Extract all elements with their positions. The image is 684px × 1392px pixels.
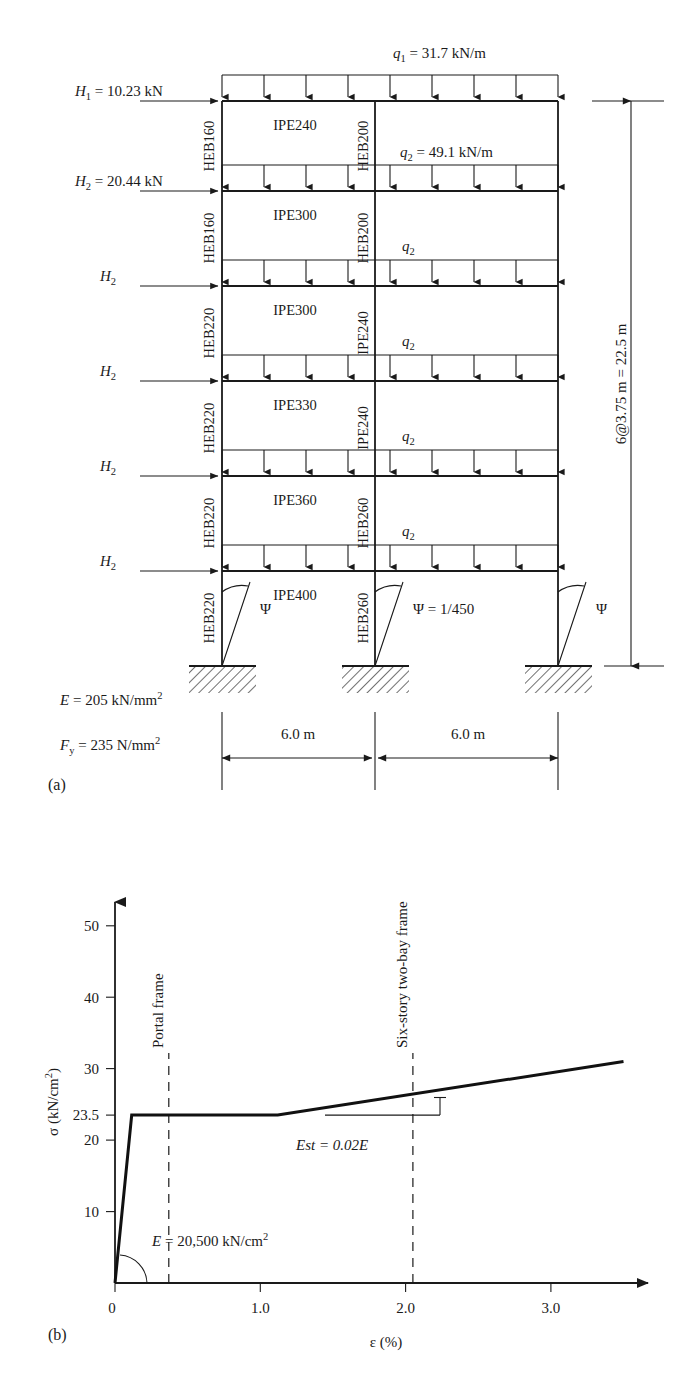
stress-strain-curve xyxy=(115,1062,624,1284)
beam-label-floor1: IPE400 xyxy=(273,587,317,603)
youngs-modulus-label: E = 205 kN/mm2 xyxy=(59,690,162,708)
beam-label-floor3: IPE330 xyxy=(273,397,317,413)
y-axis-title: σ (kN/cm2) xyxy=(43,1068,62,1136)
psi-label-right: Ψ xyxy=(596,601,608,617)
chart-markers: Portal frame Six-story two-bay frame xyxy=(150,901,413,1283)
y-tick-label-20: 20 xyxy=(84,1132,99,1148)
psi-label-left: Ψ xyxy=(260,601,272,617)
span-right-label: 6.0 m xyxy=(451,726,486,742)
left-column-label-4: HEB220 xyxy=(201,308,217,359)
lateral-force-label-5: H2 xyxy=(99,458,116,477)
span-dimensions: 6.0 m 6.0 m xyxy=(222,712,558,790)
psi-label-middle: Ψ = 1/450 xyxy=(413,601,474,617)
panel-a-label: (a) xyxy=(48,776,66,794)
middle-column-label-1: HEB260 xyxy=(355,593,371,644)
figure-page: 6@3.75 m = 22.5 m 6.0 m 6.0 m q1 = 31.7 … xyxy=(0,0,684,1392)
y-tick-label-10: 10 xyxy=(84,1204,99,1220)
lateral-force-label-2: H2 = 20.44 kN xyxy=(74,173,163,192)
support-right xyxy=(525,666,592,693)
strain-hardening-annotation: Est = 0.02E xyxy=(295,1137,368,1153)
x-axis-title: ε (%) xyxy=(370,1334,403,1351)
lateral-force-label-4: H2 xyxy=(99,363,116,382)
stress-strain-chart: 10 20 23.5 30 40 50 0 1.0 2.0 3.0 Portal… xyxy=(0,840,684,1392)
middle-column-label-3: IPE240 xyxy=(355,406,371,450)
lateral-force-label-1: H1 = 10.23 kN xyxy=(74,83,163,102)
x-tick-label-2: 2.0 xyxy=(396,1300,415,1316)
six-story-marker-label: Six-story two-bay frame xyxy=(394,901,410,1048)
beam-label-floor2: IPE360 xyxy=(273,492,317,508)
imperfection-labels: Ψ Ψ = 1/450 Ψ xyxy=(260,601,608,617)
left-column-label-2: HEB220 xyxy=(201,498,217,549)
y-tick-label-23-5: 23.5 xyxy=(73,1107,99,1123)
middle-column-label-4: IPE240 xyxy=(355,311,371,355)
fixed-supports xyxy=(189,666,592,693)
y-tick-label-40: 40 xyxy=(84,990,99,1006)
load-value-labels: q1 = 31.7 kN/m q2 = 49.1 kN/m q2 q2 q2 q… xyxy=(393,45,493,542)
q2-label: q2 = 49.1 kN/m xyxy=(400,144,493,163)
portal-frame-marker-label: Portal frame xyxy=(150,973,166,1048)
y-tick-label-30: 30 xyxy=(84,1061,99,1077)
yield-strength-label: Fy = 235 N/mm2 xyxy=(59,735,160,756)
height-dimension: 6@3.75 m = 22.5 m xyxy=(592,101,664,666)
left-column-label-5: HEB160 xyxy=(201,213,217,264)
q2-label-floor5: q2 xyxy=(402,428,415,447)
material-properties: E = 205 kN/mm2 Fy = 235 N/mm2 xyxy=(59,690,162,756)
span-left-label: 6.0 m xyxy=(281,726,316,742)
lateral-force-label-3: H2 xyxy=(99,268,116,287)
frame-diagram: 6@3.75 m = 22.5 m 6.0 m 6.0 m q1 = 31.7 … xyxy=(0,0,684,830)
elastic-angle-arc xyxy=(120,1255,147,1283)
middle-column-labels: HEB200 HEB200 IPE240 IPE240 HEB260 HEB26… xyxy=(355,121,371,644)
left-column-label-6: HEB160 xyxy=(201,121,217,172)
middle-column-label-6: HEB200 xyxy=(355,121,371,172)
left-column-label-1: HEB220 xyxy=(201,593,217,644)
elastic-modulus-annotation: E = 20,500 kN/cm2 xyxy=(151,1231,268,1249)
y-tick-label-50: 50 xyxy=(84,918,99,934)
left-column-label-3: HEB220 xyxy=(201,403,217,454)
beam-label-floor5: IPE300 xyxy=(273,207,317,223)
chart-x-ticks: 0 1.0 2.0 3.0 xyxy=(108,1283,560,1316)
beam-label-floor4: IPE300 xyxy=(273,302,317,318)
support-left xyxy=(189,666,256,693)
beam-label-roof: IPE240 xyxy=(273,117,317,133)
q1-label: q1 = 31.7 kN/m xyxy=(393,45,486,64)
lateral-force-labels: H1 = 10.23 kN H2 = 20.44 kN H2 H2 H2 H2 xyxy=(74,83,163,572)
q2-label-floor4: q2 xyxy=(402,333,415,352)
x-tick-label-0: 0 xyxy=(108,1300,116,1316)
lateral-force-label-6: H2 xyxy=(99,553,116,572)
support-middle xyxy=(342,666,409,693)
beam-section-labels: IPE240 IPE300 IPE300 IPE330 IPE360 IPE40… xyxy=(273,117,317,603)
x-tick-label-3: 3.0 xyxy=(542,1300,561,1316)
middle-column-label-5: HEB200 xyxy=(355,213,371,264)
middle-column-label-2: HEB260 xyxy=(355,498,371,549)
panel-b-label: (b) xyxy=(48,1326,67,1344)
left-column-labels: HEB160 HEB160 HEB220 HEB220 HEB220 HEB22… xyxy=(201,121,217,644)
height-dimension-label: 6@3.75 m = 22.5 m xyxy=(613,323,629,444)
q2-label-floor6: q2 xyxy=(402,523,415,542)
q2-label-floor3: q2 xyxy=(402,238,415,257)
chart-y-ticks: 10 20 23.5 30 40 50 xyxy=(73,918,115,1220)
chart-annotations: E = 20,500 kN/cm2 Est = 0.02E xyxy=(151,1137,368,1249)
x-tick-label-1: 1.0 xyxy=(251,1300,270,1316)
chart-axes xyxy=(115,902,648,1283)
curve-polyline xyxy=(115,1062,624,1284)
